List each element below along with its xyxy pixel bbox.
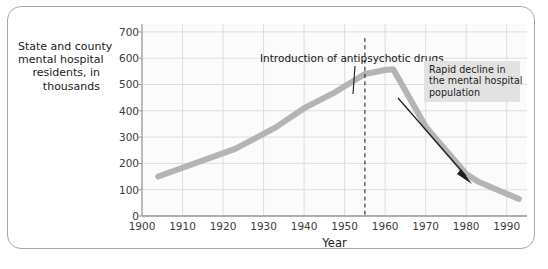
y-axis-tick-labels: 7006005004003002001000 xyxy=(103,24,139,216)
y-axis-tick-label: 100 xyxy=(105,185,139,195)
annotation-rapid-decline-line-3: population xyxy=(429,87,515,98)
annotation-intro-antipsychotic-drugs: Introduction of antipsychotic drugs xyxy=(260,52,444,64)
x-axis-tick-label: 1950 xyxy=(323,220,367,232)
annotation-rapid-decline-line-2: the mental hospital xyxy=(429,75,515,86)
y-axis-title-line-2: mental hospital xyxy=(18,53,100,66)
x-axis-tick-label: 1940 xyxy=(282,220,326,232)
x-axis-title: Year xyxy=(142,236,527,250)
annotation-rapid-decline: Rapid decline in the mental hospital pop… xyxy=(424,61,520,102)
x-axis-tick-labels: 1900191019201930194019501960197019801990 xyxy=(142,220,527,236)
y-axis-title-line-3: residents, in xyxy=(18,66,100,79)
y-axis-title-line-4: thousands xyxy=(18,80,100,93)
y-axis-tick-label: 300 xyxy=(105,132,139,142)
y-axis-tick-label: 600 xyxy=(105,53,139,63)
y-axis-tick-label: 200 xyxy=(105,158,139,168)
y-axis-tick-label: 500 xyxy=(105,79,139,89)
x-axis-tick-label: 1990 xyxy=(485,220,529,232)
y-axis-tick-label: 700 xyxy=(105,27,139,37)
x-axis-tick-label: 1970 xyxy=(404,220,448,232)
y-axis-tick-label: 400 xyxy=(105,106,139,116)
x-axis-tick-label: 1920 xyxy=(201,220,245,232)
figure-root: State and county mental hospital residen… xyxy=(0,0,548,269)
annotation-rapid-decline-line-1: Rapid decline in xyxy=(429,64,515,75)
x-axis-tick-label: 1910 xyxy=(161,220,205,232)
y-axis-title: State and county mental hospital residen… xyxy=(18,40,100,93)
x-axis-tick-label: 1900 xyxy=(120,220,164,232)
x-axis-tick-label: 1960 xyxy=(363,220,407,232)
x-axis-tick-label: 1930 xyxy=(242,220,286,232)
y-axis-title-line-1: State and county xyxy=(18,40,100,53)
x-axis-tick-label: 1980 xyxy=(444,220,488,232)
